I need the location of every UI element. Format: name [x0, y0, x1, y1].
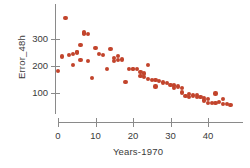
data-point	[213, 101, 217, 105]
x-tick-mark	[96, 118, 97, 127]
x-tick-label-wrap: 30	[159, 130, 183, 141]
data-point	[228, 103, 232, 107]
data-point	[187, 95, 191, 99]
data-points-layer	[0, 0, 250, 168]
data-point	[112, 56, 116, 60]
x-tick-label: 10	[84, 130, 108, 141]
data-point	[135, 67, 139, 71]
scatter-chart: Error_48h 100200300 010203040 Years-1970	[0, 0, 250, 168]
data-point	[221, 97, 225, 101]
data-point	[168, 83, 172, 87]
data-point	[198, 95, 202, 99]
data-point	[82, 31, 86, 35]
x-axis-title: Years-1970	[58, 146, 218, 157]
data-point	[82, 30, 86, 34]
y-tick-label-wrap: 300	[22, 34, 48, 44]
data-point	[93, 46, 97, 50]
data-point	[138, 70, 142, 74]
data-point	[165, 81, 169, 85]
y-tick-label-wrap: 100	[22, 88, 48, 98]
data-point	[78, 58, 82, 62]
data-point	[127, 67, 131, 71]
data-point	[142, 71, 146, 75]
data-point	[90, 76, 94, 80]
x-tick-mark	[171, 118, 172, 127]
data-point	[195, 93, 199, 97]
x-tick-label-wrap: 10	[84, 130, 108, 141]
data-point	[161, 80, 165, 84]
y-tick-mark	[51, 66, 60, 67]
data-point	[180, 86, 184, 90]
y-tick-label-wrap: 200	[22, 61, 48, 71]
data-point	[86, 59, 90, 63]
data-point	[195, 95, 199, 99]
data-point	[71, 63, 75, 67]
data-point	[210, 101, 214, 105]
x-tick-label: 20	[121, 130, 145, 141]
x-tick-label: 0	[46, 130, 70, 141]
y-tick-label: 300	[22, 34, 48, 44]
data-point	[105, 67, 109, 71]
data-point	[138, 74, 142, 78]
data-point	[206, 97, 210, 101]
data-point	[86, 32, 90, 36]
x-tick-label: 30	[159, 130, 183, 141]
data-point	[153, 78, 157, 82]
data-point	[206, 101, 210, 105]
data-point	[150, 78, 154, 82]
data-point	[131, 67, 135, 71]
data-point	[176, 84, 180, 88]
data-point	[172, 86, 176, 90]
data-point	[123, 80, 127, 84]
data-point	[202, 98, 206, 102]
data-point	[116, 58, 120, 62]
data-point	[157, 79, 161, 83]
data-point	[60, 54, 64, 58]
data-point	[172, 83, 176, 87]
data-point	[213, 91, 217, 95]
data-point	[120, 57, 124, 61]
data-point	[180, 90, 184, 94]
data-point	[101, 53, 105, 57]
data-point	[78, 43, 82, 47]
data-point	[146, 77, 150, 81]
data-point	[56, 69, 60, 73]
data-point	[112, 59, 116, 63]
data-point	[187, 92, 191, 96]
y-tick-label: 200	[22, 61, 48, 71]
data-point	[67, 53, 71, 57]
x-tick-mark	[58, 118, 59, 127]
data-point	[146, 63, 150, 67]
x-tick-label-wrap: 40	[196, 130, 220, 141]
y-tick-label: 100	[22, 88, 48, 98]
x-tick-label-wrap: 0	[46, 130, 70, 141]
data-point	[116, 54, 120, 58]
y-tick-mark	[51, 93, 60, 94]
x-tick-label: 40	[196, 130, 220, 141]
x-tick-label-wrap: 20	[121, 130, 145, 141]
x-axis-line	[58, 122, 243, 123]
data-point	[202, 96, 206, 100]
data-point	[217, 100, 221, 104]
data-point	[71, 52, 75, 56]
data-point	[131, 67, 135, 71]
data-point	[63, 16, 67, 20]
y-tick-mark	[51, 39, 60, 40]
data-point	[153, 84, 157, 88]
data-point	[191, 93, 195, 97]
y-axis-line	[55, 4, 56, 114]
data-point	[142, 75, 146, 79]
x-tick-mark	[133, 118, 134, 127]
data-point	[97, 52, 101, 56]
data-point	[108, 47, 112, 51]
data-point	[221, 102, 225, 106]
data-point	[183, 94, 187, 98]
x-tick-mark	[208, 118, 209, 127]
data-point	[82, 32, 86, 36]
data-point	[225, 102, 229, 106]
data-point	[75, 50, 79, 54]
data-point	[75, 50, 79, 54]
